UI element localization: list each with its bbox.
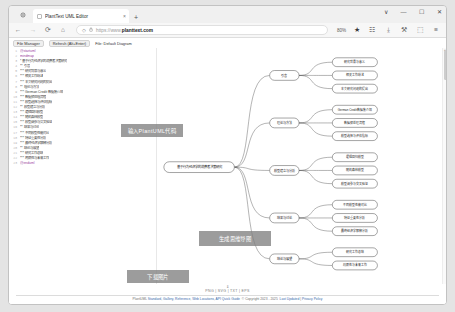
code-text: @enduml (20, 161, 35, 166)
mindmap-connector (299, 75, 332, 88)
mindmap-connector (299, 62, 332, 75)
footer-link-gallery[interactable]: Gallery (163, 297, 173, 301)
footer-link-standard[interactable]: Standard (148, 297, 161, 301)
mindmap-connector (299, 205, 332, 218)
mindmap-leaf-node: 研究背景与意义 (332, 58, 377, 67)
reload-icon[interactable]: ⟳ (44, 27, 52, 34)
mindmap-connector (299, 259, 332, 266)
mindmap-root-node: 基于行为经济学的消费者决策研究 (164, 162, 235, 173)
tab-title: PlantText UML Editor (45, 14, 120, 19)
node-label: 模型建立与分析 (274, 168, 295, 173)
tab-list-icon[interactable]: ∨ (382, 9, 389, 15)
page-content: File Manager Refresh (Alt+Enter) File: D… (9, 38, 446, 304)
node-label: 模型选择与评估指标 (341, 133, 368, 138)
refresh-button[interactable]: Refresh (Alt+Enter) (49, 40, 90, 48)
scrollbar-thumb[interactable] (444, 50, 447, 80)
workspace: 1@startuml2mindmap3* 基于行为经济学的消费者决策研究4** … (9, 48, 446, 284)
zoom-level-label[interactable]: 80% (337, 28, 346, 33)
mindmap-leaf-node: German Credit数据集介绍 (332, 105, 377, 114)
forward-icon[interactable]: → (29, 27, 37, 34)
current-file-label: File: Default Diagram (95, 42, 132, 46)
mindmap-leaf-node: 数据预处理流程 (332, 119, 377, 128)
navigation-bar: ← → ⟳ ⌂ ◇ https://www.planttext.com 80% … (9, 23, 446, 38)
mindmap-leaf-node: 局限性与未来工作 (332, 261, 377, 270)
mindmap-connector (299, 170, 332, 183)
mindmap-connector (299, 157, 332, 170)
firefox-view-icon[interactable] (17, 9, 29, 21)
page-footer: ⇓ PNG | SVG | TXT | EPS PlantUML Standar… (9, 284, 446, 304)
lock-icon (89, 27, 93, 33)
screenshot-root: PlantText UML Editor × + ∨ — ☐ ✕ ← → ⟳ ⌂… (0, 0, 455, 312)
node-label: 模型调参与交叉验证 (341, 181, 368, 186)
diagram-canvas[interactable]: 基于行为经济学的消费者决策研究引言研究背景与意义相关工作综述本文研究问题的提出理… (157, 48, 446, 284)
url-prefix: https://www. (96, 28, 122, 33)
mindmap-leaf-node: 最终经济学解释分析 (332, 227, 377, 236)
node-label: 结果与讨论 (277, 215, 293, 220)
mindmap-connector (299, 252, 332, 259)
footer-link-lastupdate[interactable]: Last Updated (280, 297, 300, 301)
node-label: 特征重要性分析 (344, 215, 365, 220)
footer-link-reference[interactable]: Reference (175, 297, 190, 301)
url-bar[interactable]: ◇ https://www.planttext.com (76, 25, 328, 35)
node-label: 引言 (281, 73, 287, 78)
page-favicon (36, 13, 42, 19)
toolbar-right-icons: ☷ ⤓ ⚒ ⬚ ≡ (368, 27, 440, 34)
mindmap-branch-node: 理论与方法 (270, 118, 299, 128)
node-label: 理论与方法 (277, 120, 292, 125)
mindmap-connector (299, 123, 332, 136)
mindmap-branch-node: 结果与讨论 (270, 213, 299, 223)
maximize-button[interactable]: ☐ (418, 9, 425, 15)
browser-tab[interactable]: PlantText UML Editor × (33, 9, 129, 23)
window-controls: ∨ — ☐ ✕ (382, 9, 443, 15)
code-editor[interactable]: 1@startuml2mindmap3* 基于行为经济学的消费者决策研究4** … (9, 48, 157, 284)
footer-copyright: © Copyright 2023 - 2025 (242, 297, 278, 301)
node-label: 逻辑回归模型 (346, 154, 364, 159)
node-label: 结论与展望 (277, 256, 292, 261)
page-scrollbar[interactable]: ▲ (442, 48, 446, 284)
back-icon[interactable]: ← (14, 27, 22, 34)
node-label: 相关工作综述 (346, 72, 364, 77)
app-menu-icon[interactable]: ≡ (432, 27, 440, 34)
node-label: 不同模型性能对比 (343, 202, 367, 207)
tab-close-icon[interactable]: × (123, 14, 126, 19)
node-label: 基于行为经济学的消费者决策研究 (177, 164, 223, 169)
node-label: 最终经济学解释分析 (341, 228, 368, 233)
minimize-button[interactable]: — (400, 9, 407, 15)
save-page-icon[interactable]: ⬚ (416, 27, 424, 34)
close-window-button[interactable]: ✕ (436, 9, 443, 15)
footer-link-apiguide[interactable]: API Quick Guide (216, 297, 240, 301)
mindmap-leaf-node: 特征重要性分析 (332, 214, 377, 223)
url-domain: planttext.com (122, 28, 153, 33)
account-icon[interactable]: ⚒ (400, 27, 408, 34)
footer-divider (16, 295, 439, 296)
file-manager-button[interactable]: File Manager (13, 40, 44, 48)
browser-window: PlantText UML Editor × + ∨ — ☐ ✕ ← → ⟳ ⌂… (8, 5, 447, 305)
footer-link-privacy[interactable]: Privacy Policy (302, 297, 323, 301)
node-label: 数据预处理流程 (344, 120, 365, 125)
mindmap-leaf-node: 本文研究问题的提出 (332, 84, 377, 93)
container-tabs-icon[interactable]: ☷ (368, 27, 376, 34)
footer-link-weblocations[interactable]: Web Locations (192, 297, 214, 301)
mindmap-connector (299, 110, 332, 123)
mindmap-leaf-node: 相关工作综述 (332, 71, 377, 80)
export-format-links[interactable]: PNG | SVG | TXT | EPS (9, 289, 446, 294)
mindmap-svg: 基于行为经济学的消费者决策研究引言研究背景与意义相关工作综述本文研究问题的提出理… (157, 48, 445, 284)
node-label: German Credit数据集介绍 (338, 107, 372, 112)
mindmap-leaf-node: 模型选择与评估指标 (332, 132, 377, 141)
footer-links-prefix: PlantUML (133, 297, 148, 301)
home-icon[interactable]: ⌂ (59, 27, 67, 34)
mindmap-leaf-node: 研究工作总结 (332, 248, 377, 257)
line-number: 23 (9, 161, 20, 166)
node-label: 本文研究问题的提出 (341, 86, 368, 91)
annotation-generate-map: 生成思维导图 (199, 231, 271, 246)
mindmap-connector (234, 167, 269, 218)
bookmark-star-icon[interactable]: ★ (353, 27, 361, 34)
mindmap-branch-node: 模型建立与分析 (270, 166, 299, 176)
url-text: https://www.planttext.com (96, 28, 153, 33)
shield-icon[interactable]: ◇ (82, 28, 86, 33)
mindmap-connector (234, 75, 269, 167)
downloads-icon[interactable]: ⤓ (384, 27, 392, 34)
node-label: 研究工作总结 (346, 249, 364, 254)
new-tab-button[interactable]: + (134, 14, 138, 21)
code-line[interactable]: 23@enduml (9, 161, 156, 166)
